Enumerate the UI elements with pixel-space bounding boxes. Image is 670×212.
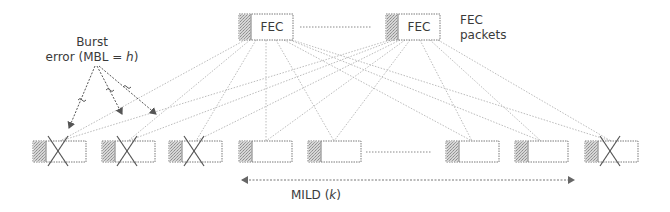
burst-squiggle-marks [78, 86, 131, 102]
fec-packet-label: FEC [408, 20, 431, 34]
fec-packet: FEC [239, 14, 293, 40]
fec-packets-label-line1: FEC [460, 13, 483, 27]
mild-label: MILD (k) [291, 188, 341, 202]
data-packet-lost [102, 136, 155, 166]
data-packet-lost [585, 136, 638, 166]
burst-error-arrows [69, 66, 156, 128]
fec-burst-error-diagram: FEC FEC FEC packets Burst error (MBL = h… [0, 0, 670, 212]
fec-packet-label: FEC [261, 20, 284, 34]
data-packet-row [33, 136, 638, 166]
data-packet-lost [33, 136, 86, 166]
fec-packet: FEC [386, 14, 440, 40]
burst-label-line1: Burst [76, 35, 108, 49]
burst-label-line2: error (MBL = h) [46, 50, 139, 64]
fec-packets-label-line2: packets [460, 28, 506, 42]
fec-connection-lines [60, 40, 611, 141]
data-packet [515, 141, 568, 162]
data-packet [308, 141, 361, 162]
data-packet-lost [169, 136, 222, 166]
data-packet [239, 141, 292, 162]
data-packet [446, 141, 499, 162]
